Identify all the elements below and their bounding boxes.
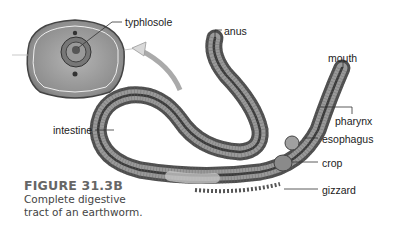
cross-section: [12, 20, 138, 98]
callout-arrow: [140, 50, 180, 90]
caption-line-1: Complete digestive: [24, 193, 143, 206]
caption-line-2: tract of an earthworm.: [24, 206, 143, 219]
label-anus: anus: [224, 25, 247, 37]
figure-caption: FIGURE 31.3B Complete digestive tract of…: [24, 178, 143, 219]
label-mouth: mouth: [328, 52, 357, 64]
figure-title: FIGURE 31.3B: [24, 178, 143, 193]
label-crop: crop: [322, 157, 342, 169]
label-typhlosole: typhlosole: [125, 16, 172, 28]
earthworm-body: [98, 38, 342, 191]
diagram-canvas: typhlosole anus mouth pharynx esophagus …: [0, 0, 394, 236]
label-gizzard: gizzard: [322, 184, 356, 196]
label-esophagus: esophagus: [322, 133, 373, 145]
label-intestine: intestine: [53, 124, 92, 136]
label-pharynx: pharynx: [335, 115, 372, 127]
